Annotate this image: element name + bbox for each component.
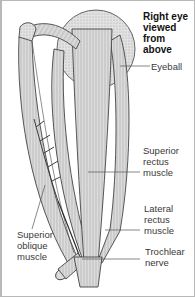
label-line: Superior: [17, 229, 53, 240]
title-line: from: [143, 33, 188, 44]
label-line: Superior: [143, 145, 179, 156]
diagram-title: Right eye viewed from above: [143, 11, 188, 55]
label-line: nerve: [145, 257, 185, 268]
label-line: muscle: [143, 167, 179, 178]
common-tendon-shape: [74, 257, 102, 287]
label-line: muscle: [144, 225, 174, 236]
label-line: Eyeball: [151, 61, 182, 72]
label-line: rectus: [143, 156, 179, 167]
label-trochlear-nerve: Trochlear nerve: [145, 246, 185, 268]
title-line: Right eye: [143, 11, 188, 22]
label-line: Lateral: [144, 203, 174, 214]
title-line: above: [143, 44, 188, 55]
label-superior-rectus: Superior rectus muscle: [143, 145, 179, 178]
label-superior-oblique: Superior oblique muscle: [17, 229, 53, 262]
diagram-frame: Right eye viewed from above Eyeball Supe…: [0, 0, 195, 297]
label-line: Trochlear: [145, 246, 185, 257]
label-line: muscle: [17, 251, 53, 262]
label-line: oblique: [17, 240, 53, 251]
label-line: rectus: [144, 214, 174, 225]
label-eyeball: Eyeball: [151, 61, 182, 72]
title-line: viewed: [143, 22, 188, 33]
label-lateral-rectus: Lateral rectus muscle: [144, 203, 174, 236]
